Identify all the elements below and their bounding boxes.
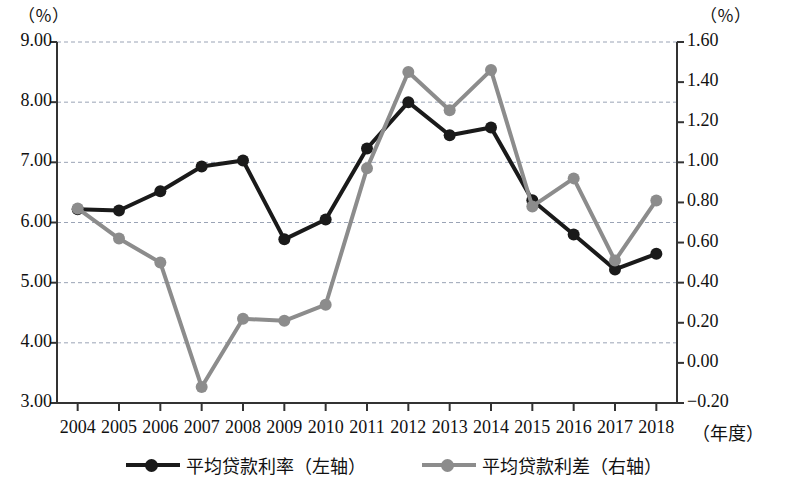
left-axis-tick-label: 3.00 xyxy=(0,391,52,412)
data-point xyxy=(650,248,662,260)
data-point xyxy=(609,255,621,267)
chart-legend: 平均贷款利率（左轴） 平均贷款利差（右轴） xyxy=(0,452,788,478)
data-point xyxy=(444,104,456,116)
data-point xyxy=(568,229,580,241)
line-chart: （％） （％） 3.004.005.006.007.008.009.00 −0.… xyxy=(0,0,788,487)
legend-label-series1: 平均贷款利率（左轴） xyxy=(186,452,366,478)
data-point xyxy=(196,161,208,173)
right-axis-tick-label: 0.20 xyxy=(687,311,749,332)
data-point xyxy=(650,194,662,206)
data-point xyxy=(113,204,125,216)
data-point xyxy=(361,142,373,154)
data-point xyxy=(444,129,456,141)
left-axis-tick-label: 6.00 xyxy=(0,211,52,232)
legend-item-average-loan-spread: 平均贷款利差（右轴） xyxy=(422,452,662,478)
right-axis-tick-label: 0.60 xyxy=(687,231,749,252)
data-point xyxy=(154,257,166,269)
data-point xyxy=(278,233,290,245)
plot-area xyxy=(0,0,788,487)
right-axis-tick-label: 0.80 xyxy=(687,190,749,211)
left-axis-tick-label: 7.00 xyxy=(0,150,52,171)
left-axis-tick-label: 8.00 xyxy=(0,90,52,111)
left-axis-tick-label: 5.00 xyxy=(0,271,52,292)
legend-label-series2: 平均贷款利差（右轴） xyxy=(482,452,662,478)
data-point xyxy=(237,313,249,325)
right-axis-ticks xyxy=(677,42,684,403)
data-point xyxy=(72,202,84,214)
x-axis-tick-label: 2018 xyxy=(628,417,684,438)
data-point xyxy=(526,200,538,212)
gridlines xyxy=(57,42,677,343)
legend-marker-icon-series1 xyxy=(126,458,180,472)
data-point xyxy=(320,299,332,311)
right-axis-tick-label: 1.60 xyxy=(687,30,749,51)
left-axis-tick-label: 9.00 xyxy=(0,30,52,51)
legend-item-average-loan-rate: 平均贷款利率（左轴） xyxy=(126,452,366,478)
data-point xyxy=(568,172,580,184)
series-line-1 xyxy=(78,102,657,269)
data-point xyxy=(361,162,373,174)
right-axis-tick-label: 0.40 xyxy=(687,271,749,292)
data-point xyxy=(237,155,249,167)
right-axis-tick-label: 1.20 xyxy=(687,110,749,131)
x-axis-title: （年度） xyxy=(692,419,764,445)
right-axis-tick-label: 0.00 xyxy=(687,351,749,372)
data-point xyxy=(485,121,497,133)
data-point xyxy=(320,213,332,225)
data-series-layer xyxy=(72,64,663,393)
data-point xyxy=(113,233,125,245)
data-point xyxy=(402,96,414,108)
data-point xyxy=(402,66,414,78)
right-axis-tick-label: 1.00 xyxy=(687,150,749,171)
data-point xyxy=(154,185,166,197)
left-axis-tick-label: 4.00 xyxy=(0,331,52,352)
data-point xyxy=(196,381,208,393)
x-axis-ticks xyxy=(78,403,657,411)
data-point xyxy=(485,64,497,76)
data-point xyxy=(278,315,290,327)
right-axis-tick-label: 1.40 xyxy=(687,70,749,91)
right-axis-tick-label: −0.20 xyxy=(687,391,749,412)
legend-marker-icon-series2 xyxy=(422,458,476,472)
